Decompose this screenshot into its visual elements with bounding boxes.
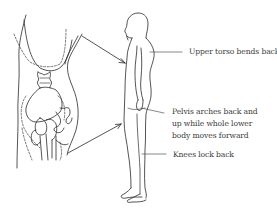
label-knees: Knees lock back — [173, 149, 234, 160]
label-upper-torso: Upper torso bends back — [189, 46, 277, 57]
pelvis-closeup-illustration — [14, 15, 82, 168]
leader-line-pelvis — [141, 108, 164, 113]
arrow-to-pelvis — [68, 124, 121, 153]
label-upper-torso-line: Upper torso bends back — [189, 46, 277, 57]
label-pelvis: Pelvis arches back and up while whole lo… — [172, 106, 258, 142]
standing-figure-illustration — [121, 13, 154, 202]
posture-diagram: Upper torso bends back Pelvis arches bac… — [0, 0, 277, 212]
label-pelvis-line-3: body moves forward — [172, 130, 258, 142]
label-knees-line: Knees lock back — [173, 149, 234, 160]
label-pelvis-line-2: up while whole lower — [172, 118, 258, 130]
label-pelvis-line-1: Pelvis arches back and — [172, 106, 258, 118]
arrow-to-upper-torso — [82, 36, 125, 63]
